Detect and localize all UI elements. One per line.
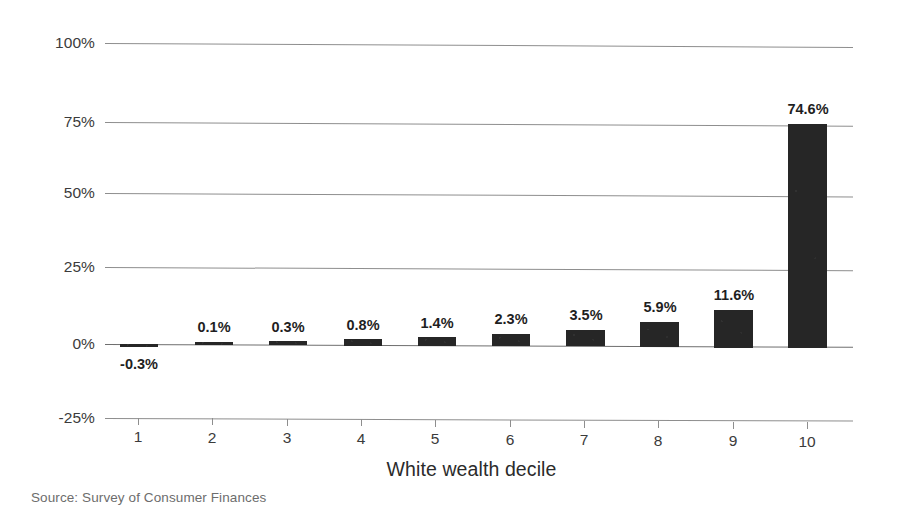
y-axis-tick-labels: 100% 75% 50% 25% 0% -25% bbox=[20, 43, 95, 418]
x-axis-tick-label-7: 7 bbox=[564, 431, 604, 449]
bar-data-label-decile-4: 0.8% bbox=[333, 317, 393, 333]
bar-data-label-decile-5: 1.4% bbox=[407, 315, 467, 331]
bar-decile-1 bbox=[120, 344, 158, 347]
y-axis-tick-label: 50% bbox=[64, 184, 95, 202]
bar-data-label-decile-10: 74.6% bbox=[773, 101, 843, 117]
x-axis-tick-label-1: 1 bbox=[118, 428, 158, 446]
bar-decile-9 bbox=[714, 310, 753, 348]
x-axis-tick bbox=[733, 422, 734, 429]
gridline-75 bbox=[105, 122, 853, 127]
y-axis-tick-label: 100% bbox=[55, 34, 95, 52]
bar-data-label-decile-8: 5.9% bbox=[630, 299, 690, 315]
source-note: Source: Survey of Consumer Finances bbox=[31, 490, 266, 505]
x-axis-tick bbox=[361, 419, 362, 426]
bar-decile-3 bbox=[269, 341, 307, 345]
bar-data-label-decile-7: 3.5% bbox=[556, 307, 616, 323]
x-axis-tick bbox=[287, 419, 288, 426]
bar-decile-5 bbox=[418, 337, 456, 346]
x-axis-tick bbox=[584, 421, 585, 428]
y-axis-tick-label: -25% bbox=[58, 409, 95, 427]
x-axis-tick-label-6: 6 bbox=[490, 431, 530, 449]
x-axis-tick bbox=[658, 421, 659, 428]
bar-data-label-decile-9: 11.6% bbox=[699, 287, 769, 303]
y-axis-tick-label: 25% bbox=[64, 258, 95, 276]
bar-decile-10 bbox=[788, 124, 827, 348]
x-axis-tick-label-8: 8 bbox=[638, 432, 678, 450]
bar-decile-4 bbox=[344, 339, 382, 346]
bar-chart-figure: 100% 75% 50% 25% 0% -25% bbox=[0, 0, 899, 524]
y-axis-tick-label: 0% bbox=[72, 335, 95, 353]
bar-decile-2 bbox=[195, 342, 233, 345]
gridline-100 bbox=[105, 43, 853, 48]
x-axis-tick bbox=[138, 418, 139, 425]
x-axis-tick bbox=[212, 418, 213, 425]
y-axis-tick-label: 75% bbox=[64, 113, 95, 131]
gridline-25 bbox=[105, 267, 853, 271]
bar-decile-8 bbox=[640, 322, 679, 347]
x-axis-tick-label-3: 3 bbox=[267, 429, 307, 447]
x-axis-tick-label-4: 4 bbox=[341, 430, 381, 448]
x-axis-tick-label-2: 2 bbox=[192, 429, 232, 447]
x-axis-title: White wealth decile bbox=[0, 458, 899, 481]
bar-data-label-decile-1: -0.3% bbox=[109, 356, 169, 372]
bar-decile-6 bbox=[492, 334, 530, 346]
x-axis-tick-label-10: 10 bbox=[787, 433, 827, 451]
gridline-minus25 bbox=[105, 418, 853, 422]
bar-data-label-decile-6: 2.3% bbox=[481, 311, 541, 327]
gridline-50 bbox=[105, 193, 853, 197]
bar-data-label-decile-2: 0.1% bbox=[184, 319, 244, 335]
x-axis-title-text: White wealth decile bbox=[387, 458, 557, 480]
x-axis-tick bbox=[807, 422, 808, 429]
bar-data-label-decile-3: 0.3% bbox=[258, 319, 318, 335]
x-axis-tick bbox=[435, 420, 436, 427]
x-axis-tick-label-5: 5 bbox=[415, 430, 455, 448]
x-axis-tick-label-9: 9 bbox=[713, 432, 753, 450]
bar-decile-7 bbox=[566, 330, 605, 346]
x-axis-tick bbox=[510, 420, 511, 427]
plot-area: -0.3% 0.1% 0.3% 0.8% 1.4% 2.3% 3.5% 5.9%… bbox=[105, 43, 853, 418]
